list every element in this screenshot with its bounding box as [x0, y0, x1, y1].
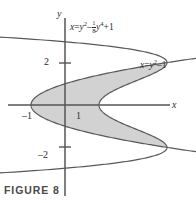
figure-8-container: y x 2 –2 –1 1 x=y2–18y4+1 x=y2–1 FIGURE …	[0, 0, 196, 203]
equation-label-quartic: x=y2–18y4+1	[70, 20, 114, 35]
x-axis-label: x	[172, 100, 176, 110]
x-tick-label-1: 1	[76, 111, 81, 121]
y-axis-label: y	[57, 9, 61, 19]
eq-quartic-const: 1	[109, 22, 114, 32]
y-tick-label-neg2: –2	[38, 150, 48, 160]
y-tick-label-2: 2	[44, 57, 49, 67]
eq-parabola-const: 1	[162, 60, 167, 70]
figure-caption: FIGURE 8	[4, 184, 60, 196]
x-tick-label-neg1: –1	[22, 111, 32, 121]
equation-label-parabola: x=y2–1	[140, 59, 167, 71]
eq-quartic-minus: –	[87, 22, 92, 32]
